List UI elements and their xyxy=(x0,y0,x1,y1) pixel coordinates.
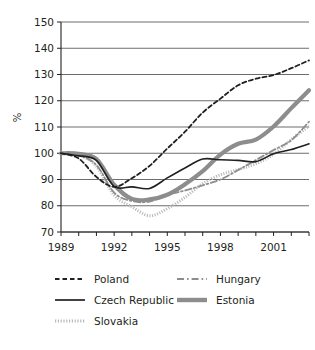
legend-swatch-thick-icon xyxy=(177,294,207,306)
line-chart-plot: 708090100110120130140150 198919921995199… xyxy=(0,0,315,265)
x-axis-tick-labels: 19891992199519982001 xyxy=(48,241,287,253)
y-axis-label: % xyxy=(12,107,23,129)
svg-text:1995: 1995 xyxy=(154,241,181,253)
svg-text:2001: 2001 xyxy=(260,241,287,253)
svg-text:1998: 1998 xyxy=(207,241,234,253)
svg-text:1989: 1989 xyxy=(48,241,75,253)
svg-text:150: 150 xyxy=(34,16,54,28)
legend-item-estonia: Estonia xyxy=(177,289,297,310)
series-line-estonia xyxy=(61,90,309,200)
legend-label: Slovakia xyxy=(94,315,138,327)
legend-item-hungary: Hungary xyxy=(177,268,297,289)
legend-swatch-dashdot-icon xyxy=(177,273,207,285)
y-axis-ticks xyxy=(57,22,61,232)
svg-text:120: 120 xyxy=(34,94,54,106)
series-line-slovakia xyxy=(61,126,309,216)
y-axis-tick-labels: 708090100110120130140150 xyxy=(34,16,54,238)
legend-row: Czech Republic Estonia xyxy=(0,289,315,310)
legend-swatch-dotted-icon xyxy=(55,315,85,327)
legend-item-poland: Poland xyxy=(55,268,177,289)
legend-swatch-solid-icon xyxy=(55,294,85,306)
svg-text:100: 100 xyxy=(34,147,54,159)
legend-label: Poland xyxy=(94,273,129,285)
legend-swatch-dashed-icon xyxy=(55,273,85,285)
legend-row: Slovakia xyxy=(0,310,315,331)
x-axis-ticks xyxy=(61,232,309,236)
legend-item-empty xyxy=(177,310,297,331)
legend-row: Poland Hungary xyxy=(0,268,315,289)
legend-item-slovakia: Slovakia xyxy=(55,310,177,331)
svg-text:1992: 1992 xyxy=(101,241,128,253)
svg-text:80: 80 xyxy=(41,199,54,211)
legend-label: Estonia xyxy=(216,294,255,306)
chart-legend: Poland Hungary Czech Republic Estonia xyxy=(0,268,315,331)
svg-text:130: 130 xyxy=(34,68,54,80)
svg-text:70: 70 xyxy=(41,226,54,238)
chart-figure: % 708090100110120130140150 1989199219951… xyxy=(0,0,315,350)
legend-item-czech-republic: Czech Republic xyxy=(55,289,177,310)
legend-label: Czech Republic xyxy=(94,294,174,306)
data-series-group xyxy=(61,60,309,215)
legend-label: Hungary xyxy=(216,273,261,285)
svg-text:90: 90 xyxy=(41,173,54,185)
svg-text:140: 140 xyxy=(34,42,54,54)
svg-text:110: 110 xyxy=(34,121,54,133)
